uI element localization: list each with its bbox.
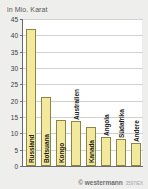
bar: Andere bbox=[131, 143, 141, 166]
y-axis-label: 15 bbox=[11, 114, 18, 121]
y-axis-label: 20 bbox=[11, 97, 18, 104]
bar-slot: Australien bbox=[68, 19, 83, 166]
bar-label: Südafrika bbox=[117, 109, 124, 138]
figure-code: 3597IEX bbox=[126, 181, 143, 186]
chart-figure: in Mio. Karat 454035302520151050 Russlan… bbox=[0, 0, 148, 189]
bar-label: Botsuana bbox=[42, 134, 49, 163]
y-axis-label: 45 bbox=[11, 16, 18, 23]
chart-title: in Mio. Karat bbox=[7, 6, 48, 13]
footer: © westermann 3597IEX bbox=[78, 179, 143, 186]
bar: Südafrika bbox=[116, 139, 126, 166]
bar-slot: Kanada bbox=[83, 19, 98, 166]
y-axis-label: 25 bbox=[11, 81, 18, 88]
bar: Angola bbox=[101, 137, 111, 166]
bar-label: Kongo bbox=[57, 143, 64, 163]
y-axis-label: 35 bbox=[11, 48, 18, 55]
bar: Russland bbox=[26, 29, 36, 166]
bar-label: Russland bbox=[27, 135, 34, 163]
bar-label: Kanada bbox=[87, 140, 94, 163]
bar-slot: Andere bbox=[128, 19, 143, 166]
bar-slot: Südafrika bbox=[113, 19, 128, 166]
bar: Kongo bbox=[56, 120, 66, 166]
plot-area: 454035302520151050 RusslandBotsuanaKongo… bbox=[22, 19, 142, 167]
publisher-credit: © westermann bbox=[78, 179, 123, 186]
bar-slot: Angola bbox=[98, 19, 113, 166]
bar: Kanada bbox=[86, 127, 96, 166]
bar-label: Angola bbox=[102, 114, 109, 135]
y-axis-label: 5 bbox=[14, 146, 18, 153]
y-axis-label: 0 bbox=[14, 163, 18, 170]
bar-group: RusslandBotsuanaKongoAustralienKanadaAng… bbox=[23, 19, 143, 166]
bar: Botsuana bbox=[41, 97, 51, 166]
bar-slot: Kongo bbox=[53, 19, 68, 166]
y-axis-label: 40 bbox=[11, 32, 18, 39]
y-axis-label: 10 bbox=[11, 130, 18, 137]
bar: Australien bbox=[71, 121, 81, 166]
y-axis-label: 30 bbox=[11, 65, 18, 72]
bar-label: Australien bbox=[72, 89, 79, 120]
y-axis-tick bbox=[20, 166, 23, 167]
gridline bbox=[23, 166, 143, 167]
bar-slot: Russland bbox=[23, 19, 38, 166]
bar-label: Andere bbox=[132, 120, 139, 142]
bar-slot: Botsuana bbox=[38, 19, 53, 166]
